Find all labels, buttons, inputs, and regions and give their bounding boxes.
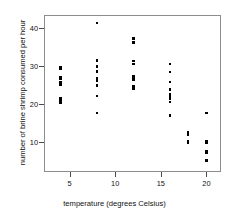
scatter-plot-figure: 10203040 5101520 temperature (degrees Ce… bbox=[0, 0, 229, 224]
data-point bbox=[96, 65, 99, 68]
data-point bbox=[132, 41, 135, 44]
data-point bbox=[132, 63, 135, 66]
data-point bbox=[96, 70, 99, 73]
data-point bbox=[169, 71, 172, 74]
data-point bbox=[169, 81, 172, 84]
data-point bbox=[96, 59, 99, 62]
data-point bbox=[132, 87, 135, 90]
y-axis-tick-label: 40 bbox=[30, 24, 38, 33]
data-point bbox=[169, 63, 172, 66]
x-axis-tick-label: 5 bbox=[67, 179, 71, 188]
data-point bbox=[187, 142, 190, 145]
data-point bbox=[169, 114, 172, 117]
x-axis-tick bbox=[115, 172, 116, 177]
x-axis-tick bbox=[70, 172, 71, 177]
y-axis-tick-label: 30 bbox=[30, 62, 38, 71]
x-axis-tick bbox=[161, 172, 162, 177]
data-point bbox=[205, 112, 208, 115]
data-point bbox=[205, 159, 208, 162]
y-axis-tick bbox=[39, 28, 44, 29]
x-axis-title: temperature (degrees Celsius) bbox=[0, 199, 229, 208]
data-point bbox=[96, 95, 99, 98]
y-axis-tick-label: 20 bbox=[30, 99, 38, 108]
data-point bbox=[169, 101, 172, 104]
data-point bbox=[132, 37, 135, 40]
data-point bbox=[169, 88, 172, 91]
data-point bbox=[59, 84, 62, 87]
data-point bbox=[187, 133, 190, 136]
data-point bbox=[96, 84, 99, 87]
data-point bbox=[96, 22, 99, 25]
data-point bbox=[59, 78, 62, 81]
data-point bbox=[205, 141, 208, 144]
data-point bbox=[59, 67, 62, 70]
data-point bbox=[96, 112, 99, 115]
x-axis-tick bbox=[206, 172, 207, 177]
y-axis-title: number of brine shrimp consumed per hour bbox=[18, 3, 27, 183]
y-axis-tick bbox=[39, 66, 44, 67]
y-axis-tick-label: 10 bbox=[30, 137, 38, 146]
data-point bbox=[59, 102, 62, 105]
data-point bbox=[169, 97, 172, 100]
x-axis-tick-label: 20 bbox=[202, 179, 210, 188]
data-point bbox=[132, 79, 135, 82]
data-point bbox=[96, 79, 99, 82]
data-point bbox=[205, 151, 208, 154]
x-axis-tick-label: 10 bbox=[111, 179, 119, 188]
y-axis-tick bbox=[39, 104, 44, 105]
y-axis-tick bbox=[39, 142, 44, 143]
x-axis-tick-label: 15 bbox=[157, 179, 165, 188]
